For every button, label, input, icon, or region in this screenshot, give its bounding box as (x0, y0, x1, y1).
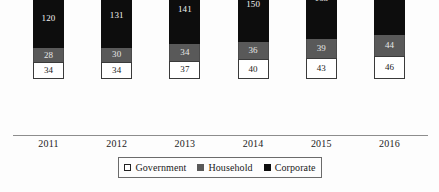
legend-label-government: Government (135, 162, 186, 173)
bar-value-label: 40 (248, 65, 257, 74)
chart-legend: Government Household Corporate (118, 157, 322, 178)
legend-swatch-government-icon (124, 164, 131, 171)
bar-segment-government[interactable]: 43 (306, 58, 337, 79)
stacked-bar[interactable]: 1202834 (33, 0, 64, 79)
x-axis-label-2011: 2011 (19, 138, 79, 149)
bar-segment-household[interactable]: 34 (169, 44, 200, 61)
stacked-bar[interactable]: 1413437 (169, 0, 200, 79)
bar-segment-government[interactable]: 37 (169, 61, 200, 79)
bar-value-label: 36 (248, 46, 257, 55)
bar-value-label: 131 (110, 11, 124, 20)
bar-segment-corporate[interactable]: 141 (169, 0, 200, 44)
bar-value-label: 34 (44, 66, 53, 75)
x-axis-label-2012: 2012 (87, 138, 147, 149)
bar-value-label: 163 (314, 0, 328, 3)
bar-value-label: 46 (385, 63, 394, 72)
stacked-bar[interactable]: 1633943 (306, 0, 337, 79)
bar-segment-corporate[interactable]: 166 (374, 0, 405, 35)
bar-segment-corporate[interactable]: 163 (306, 0, 337, 39)
x-axis-line (13, 135, 428, 136)
stacked-bar-chart: 1202834131303414134371503640163394316644… (0, 0, 439, 192)
bar-segment-household[interactable]: 30 (101, 48, 132, 63)
bar-value-label: 120 (42, 14, 56, 23)
bar-value-label: 43 (317, 64, 326, 73)
legend-label-corporate: Corporate (275, 162, 316, 173)
bar-segment-household[interactable]: 44 (374, 35, 405, 57)
bar-segment-household[interactable]: 28 (33, 48, 64, 62)
bar-value-label: 30 (112, 50, 121, 59)
bar-value-label: 39 (317, 44, 326, 53)
bar-segment-corporate[interactable]: 131 (101, 0, 132, 48)
bar-segment-corporate[interactable]: 120 (33, 0, 64, 48)
legend-swatch-corporate-icon (264, 164, 271, 171)
x-axis-label-2014: 2014 (223, 138, 283, 149)
legend-item-corporate[interactable]: Corporate (264, 162, 316, 173)
bar-segment-government[interactable]: 46 (374, 56, 405, 79)
bar-segment-government[interactable]: 34 (33, 62, 64, 79)
bar-value-label: 141 (178, 5, 192, 14)
legend-item-household[interactable]: Household (197, 162, 252, 173)
stacked-bar[interactable]: 1313034 (101, 0, 132, 79)
x-axis-label-2013: 2013 (155, 138, 215, 149)
bar-segment-government[interactable]: 40 (238, 59, 269, 79)
bar-segment-household[interactable]: 36 (238, 42, 269, 60)
bar-value-label: 28 (44, 51, 53, 60)
bar-value-label: 34 (112, 66, 121, 75)
stacked-bar[interactable]: 1503640 (238, 0, 269, 79)
legend-item-government[interactable]: Government (124, 162, 186, 173)
plot-area: 1202834131303414134371503640163394316644… (0, 0, 439, 136)
bar-segment-corporate[interactable]: 150 (238, 0, 269, 42)
bar-value-label: 44 (385, 41, 394, 50)
bar-segment-household[interactable]: 39 (306, 39, 337, 58)
stacked-bar[interactable]: 1664446 (374, 0, 405, 79)
bar-segment-government[interactable]: 34 (101, 62, 132, 79)
legend-swatch-household-icon (197, 164, 204, 171)
bar-value-label: 34 (180, 48, 189, 57)
x-axis-label-2015: 2015 (291, 138, 351, 149)
bar-value-label: 37 (180, 65, 189, 74)
legend-label-household: Household (208, 162, 252, 173)
x-axis-label-2016: 2016 (360, 138, 420, 149)
bar-value-label: 150 (246, 0, 260, 9)
